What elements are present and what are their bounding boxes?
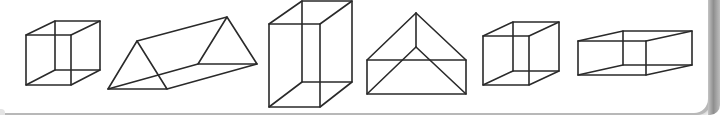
triangular-prism-shape xyxy=(108,17,257,89)
flat-box-shape xyxy=(578,31,692,75)
roof-prism-shape xyxy=(367,13,466,94)
shapes-diagram xyxy=(0,0,720,115)
tall-box-shape xyxy=(269,1,352,107)
cube-2-shape xyxy=(483,22,559,85)
cube-1-shape xyxy=(26,21,100,85)
